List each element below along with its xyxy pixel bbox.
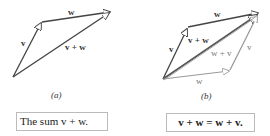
vector-w-arrow — [42, 12, 110, 22]
label-v-plus-w: v + w — [188, 35, 209, 45]
label-v-plus-w: v + w — [65, 42, 86, 52]
vector-w-top-arrow — [188, 13, 258, 27]
caption-a: The sum v + w. — [16, 112, 108, 131]
vector-v-arrow — [13, 23, 41, 77]
label-w-bottom: w — [196, 76, 203, 86]
label-v: v — [21, 38, 26, 48]
figure-b: v w v + w w + v v w (b) — [163, 9, 258, 101]
caption-b: v + w = w + v. — [166, 113, 255, 132]
label-v-right: v — [247, 42, 252, 52]
label-w: w — [68, 7, 75, 17]
label-w-top: w — [214, 9, 221, 19]
vector-v-plus-w-arrow — [163, 15, 257, 79]
figure-a: v w v + w (a) — [13, 7, 110, 100]
figure-b-label: (b) — [201, 91, 212, 101]
figure-a-label: (a) — [51, 90, 62, 100]
label-v-left: v — [169, 44, 174, 54]
label-w-plus-v: w + v — [211, 48, 232, 58]
vector-sum-arrow — [13, 13, 109, 77]
